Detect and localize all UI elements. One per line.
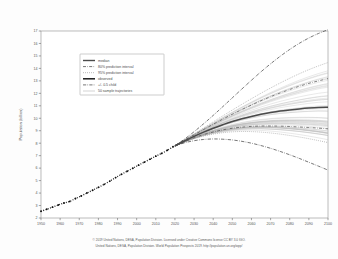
legend-label: 50 sample trajectories — [98, 89, 132, 93]
y-tick-label: 2 — [36, 216, 38, 220]
observed-point — [172, 146, 174, 148]
x-tick-label: 2080 — [286, 222, 294, 226]
observed-point — [109, 180, 111, 182]
y-tick-label: 17 — [34, 29, 38, 33]
observed-point — [138, 164, 140, 166]
x-tick-label: 2000 — [133, 222, 141, 226]
y-tick-label: 16 — [34, 42, 38, 46]
y-tick-label: 5 — [36, 179, 38, 183]
observed-point — [80, 195, 82, 197]
observed-point — [155, 155, 157, 157]
chart-figure: 234567891011121314151617 195019601970198… — [0, 0, 338, 259]
x-tick-label: 1970 — [75, 222, 83, 226]
y-tick-label: 3 — [36, 204, 38, 208]
y-tick-label: 13 — [34, 79, 38, 83]
y-tick-label: 8 — [36, 142, 38, 146]
x-tick-label: 2010 — [152, 222, 160, 226]
observed-point — [166, 149, 168, 151]
x-tick-label: 2100 — [324, 222, 332, 226]
observed-point — [63, 202, 65, 204]
caption-line-1: © 2019 United Nations, DESA, Population … — [93, 238, 246, 242]
observed-point — [97, 186, 99, 188]
x-tick-label: 2060 — [247, 222, 255, 226]
x-tick-label: 2030 — [190, 222, 198, 226]
observed-point — [120, 173, 122, 175]
y-axis-title: Population (billion) — [18, 108, 23, 141]
x-tick-label: 1960 — [56, 222, 64, 226]
x-tick-label: 2050 — [228, 222, 236, 226]
observed-point — [149, 158, 151, 160]
legend-label: 80% prediction interval — [98, 65, 134, 69]
legend-label: 95% prediction interval — [98, 71, 134, 75]
observed-point — [132, 167, 134, 169]
x-tick-label: 2070 — [267, 222, 275, 226]
y-tick-label: 12 — [34, 92, 38, 96]
x-tick-label: 2040 — [209, 222, 217, 226]
observed-point — [69, 200, 71, 202]
y-tick-label: 6 — [36, 166, 38, 170]
y-tick-label: 9 — [36, 129, 38, 133]
observed-point — [126, 170, 128, 172]
observed-point — [143, 161, 145, 163]
observed-point — [86, 192, 88, 194]
observed-point — [46, 208, 48, 210]
legend-label: median — [98, 59, 110, 63]
observed-point — [103, 183, 105, 185]
x-tick-label: 1950 — [37, 222, 45, 226]
legend-label: +/- 0.5 child — [98, 83, 116, 87]
x-tick-label: 2020 — [171, 222, 179, 226]
y-tick-label: 11 — [34, 104, 38, 108]
y-tick-label: 15 — [34, 54, 38, 58]
observed-point — [161, 152, 163, 154]
x-tick-label: 2090 — [305, 222, 313, 226]
observed-point — [115, 177, 117, 179]
observed-point — [40, 210, 42, 212]
observed-point — [57, 204, 59, 206]
caption-line-2: United Nations, DESA, Population Divisio… — [96, 244, 243, 248]
observed-point — [52, 206, 54, 208]
y-tick-label: 14 — [34, 67, 38, 71]
y-tick-label: 10 — [34, 117, 38, 121]
legend-label: observed — [98, 77, 112, 81]
x-tick-label: 1980 — [94, 222, 102, 226]
y-tick-label: 4 — [36, 191, 38, 195]
x-tick-label: 1990 — [114, 222, 122, 226]
chart-legend: median80% prediction interval95% predict… — [80, 54, 164, 95]
observed-point — [74, 198, 76, 200]
population-projection-chart: 234567891011121314151617 195019601970198… — [0, 0, 338, 259]
observed-point — [92, 189, 94, 191]
y-tick-label: 7 — [36, 154, 38, 158]
